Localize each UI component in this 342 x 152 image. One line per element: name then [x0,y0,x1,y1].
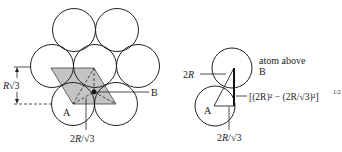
height-label-r: R [2,80,9,91]
atom-circle [31,45,74,88]
svg-text:R√3: R√3 [2,80,20,91]
diagram-canvas: R√3 A B 2R/√3 atom above B A 2R 2R/√3 [(… [0,0,342,152]
point-b-label: B [151,87,158,98]
point-a-label: A [63,107,71,118]
point-b-label: B [259,66,266,77]
point-a-label: A [204,105,212,116]
left-diagram: R√3 A B 2R/√3 [2,9,160,145]
base-label-sqrt: √3 [231,132,242,143]
svg-text:2R: 2R [183,69,194,80]
hyp-label-r: R [187,69,194,80]
arrow-up-icon [15,67,19,72]
base-label-r: R [74,133,81,144]
svg-text:2R/√3: 2R/√3 [70,133,94,144]
base-label-r: R [221,132,228,143]
atom-above-circle [212,48,252,88]
svg-text:[(2R)² − (2R/√3)²]: [(2R)² − (2R/√3)²] [249,92,319,103]
right-diagram: atom above B A 2R 2R/√3 [(2R)² − (2R/√3)… [183,48,341,143]
height-exponent: 1/2 [333,89,341,95]
atom-above-label: atom above [259,55,306,66]
height-formula: [(2R)² − (2R/√3)²] [249,92,319,103]
arrow-down-icon [15,99,19,104]
base-label-sqrt: √3 [84,133,95,144]
atom-circle [117,45,160,88]
svg-text:2R/√3: 2R/√3 [217,132,241,143]
height-label-sqrt: √3 [9,80,20,91]
